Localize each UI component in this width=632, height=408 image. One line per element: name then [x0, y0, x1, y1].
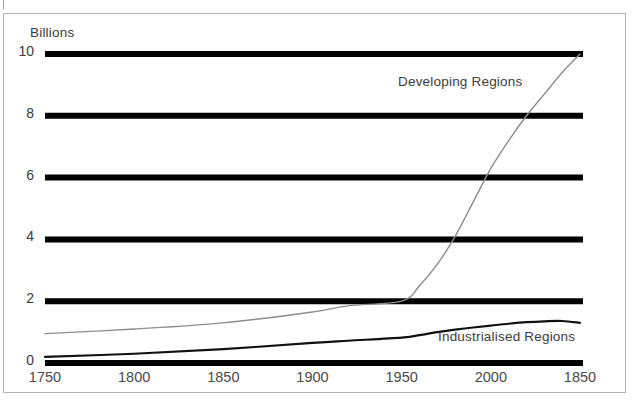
y-tick-label-8: 8 — [8, 105, 34, 121]
series-line-developing-regions — [45, 54, 580, 334]
figure-container: Billions 0246810 17501800185019001950200… — [0, 0, 632, 408]
x-tick-label-5: 2000 — [463, 369, 519, 385]
x-tick-label-2: 1850 — [195, 369, 251, 385]
y-tick-label-6: 6 — [8, 167, 34, 183]
x-tick-label-0: 1750 — [17, 369, 73, 385]
x-tick-label-4: 1950 — [374, 369, 430, 385]
gridline-group — [45, 54, 583, 363]
y-tick-label-4: 4 — [8, 228, 34, 244]
x-tick-label-6: 1850 — [552, 369, 608, 385]
series-group — [45, 54, 580, 357]
x-tick-label-3: 1900 — [285, 369, 341, 385]
x-tick-label-1: 1800 — [106, 369, 162, 385]
series-label-industrialised-regions: Industrialised Regions — [438, 329, 575, 344]
y-tick-label-10: 10 — [8, 43, 34, 59]
chart-svg — [0, 0, 632, 408]
y-tick-label-0: 0 — [8, 352, 34, 368]
series-label-developing-regions: Developing Regions — [398, 74, 522, 89]
y-tick-label-2: 2 — [8, 290, 34, 306]
y-axis-title: Billions — [30, 25, 74, 40]
plot-area: Billions 0246810 17501800185019001950200… — [0, 0, 632, 408]
